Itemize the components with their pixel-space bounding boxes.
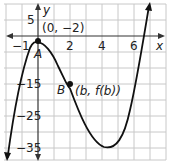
curve-up-arrow-icon — [145, 2, 152, 11]
point-a-coords: (0, −2) — [42, 21, 84, 35]
point-a — [35, 38, 41, 44]
tick-x-neg1: −1 — [12, 39, 30, 53]
tick-x-6: 6 — [130, 39, 138, 53]
point-b — [67, 81, 73, 87]
x-axis-label: x — [155, 39, 164, 53]
point-b-label: B — [57, 83, 65, 97]
cubic-function-graph: y x −1 2 4 6 5 −15 −25 −35 A (0, −2) B (… — [0, 0, 169, 164]
point-a-label: A — [33, 47, 42, 61]
tick-y-5: 5 — [27, 13, 35, 27]
tick-y-neg25: −25 — [16, 109, 41, 123]
tick-y-neg35: −35 — [16, 141, 41, 155]
tick-x-4: 4 — [98, 39, 106, 53]
point-b-coords: (b, f(b)) — [75, 84, 121, 98]
tick-x-2: 2 — [66, 39, 74, 53]
y-axis-label: y — [42, 3, 51, 17]
